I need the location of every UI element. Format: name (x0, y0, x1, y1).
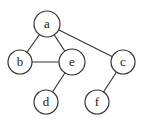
node-d-label: d (43, 94, 50, 109)
node-e: e (59, 49, 85, 75)
node-c-label: c (120, 54, 126, 69)
node-e-label: e (69, 54, 75, 69)
node-f-label: f (95, 94, 100, 109)
node-a-label: a (44, 16, 50, 31)
nodes-layer: a b e c d f (8, 11, 135, 114)
graph-diagram: a b e c d f (0, 0, 144, 122)
node-b-label: b (17, 54, 24, 69)
node-f: f (85, 90, 109, 114)
node-d: d (34, 90, 58, 114)
node-b: b (8, 50, 32, 74)
node-a: a (34, 11, 60, 37)
node-c: c (111, 50, 135, 74)
